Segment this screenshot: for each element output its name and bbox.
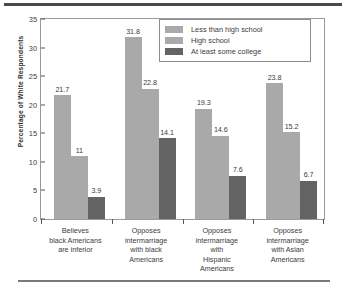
bar-value-label: 15.2 bbox=[285, 122, 299, 131]
bar-fill bbox=[229, 176, 246, 219]
bar-value-label: 22.8 bbox=[143, 78, 157, 87]
y-axis-tick-label: 20 bbox=[29, 100, 37, 109]
y-axis-tick-label: 5 bbox=[33, 186, 37, 195]
top-divider-rule bbox=[4, 3, 342, 6]
chart-legend: Less than high school High school At lea… bbox=[159, 19, 311, 62]
x-axis-category-label-line: Hispanic bbox=[182, 255, 253, 265]
y-axis-tick-mark bbox=[41, 104, 45, 105]
x-axis-category-label: Opposesintermarriagewith blackAmericans bbox=[111, 226, 182, 264]
x-axis-category-label-line: intermarriage bbox=[111, 236, 182, 246]
bottom-divider-rule bbox=[18, 280, 330, 282]
x-axis-tick-mark bbox=[183, 219, 184, 224]
x-axis-category-label: Believesblack Americansare inferior bbox=[40, 226, 111, 255]
legend-item: High school bbox=[165, 35, 305, 46]
x-axis-category-label-line: intermarriage bbox=[252, 236, 323, 246]
bar-value-label: 23.8 bbox=[268, 73, 282, 82]
x-axis-tick-mark bbox=[41, 219, 42, 224]
bar-value-label: 11 bbox=[76, 146, 83, 155]
bar-value-label: 3.9 bbox=[91, 186, 101, 195]
x-axis-category-label-line: Believes bbox=[40, 226, 111, 236]
x-axis-category-label-line: Americans bbox=[252, 255, 323, 265]
bar-fill bbox=[54, 95, 71, 219]
x-axis-category-label-line: Opposes bbox=[252, 226, 323, 236]
y-axis-tick-mark bbox=[41, 19, 45, 20]
bar-fill bbox=[159, 138, 176, 219]
y-axis-tick-mark bbox=[41, 133, 45, 134]
bar-value-label: 19.3 bbox=[197, 98, 211, 107]
bar-fill bbox=[300, 181, 317, 219]
bar-group: 21.7113.9 bbox=[54, 19, 105, 219]
x-axis-category-label-line: Opposes bbox=[182, 226, 253, 236]
x-axis-category-label: OpposesintermarriagewithHispanicAmerican… bbox=[182, 226, 253, 274]
bar-fill bbox=[195, 109, 212, 219]
x-axis-category-label-line: black Americans bbox=[40, 236, 111, 246]
legend-label: Less than high school bbox=[191, 25, 263, 34]
x-axis-category-label: Opposesintermarriagewith AsianAmericans bbox=[252, 226, 323, 264]
bar-value-label: 14.1 bbox=[160, 128, 174, 137]
x-axis-category-label-line: intermarriage bbox=[182, 236, 253, 246]
bar-fill bbox=[142, 89, 159, 219]
y-axis-tick-label: 0 bbox=[33, 215, 37, 224]
y-axis-tick-mark bbox=[41, 161, 45, 162]
x-axis-category-labels: Believesblack Americansare inferiorOppos… bbox=[40, 226, 325, 286]
legend-item: Less than high school bbox=[165, 24, 305, 35]
y-axis-tick: 0 bbox=[33, 215, 41, 224]
bar-fill bbox=[283, 132, 300, 219]
y-axis-tick: 15 bbox=[29, 129, 41, 138]
y-axis-title: Percentage of White Respondents bbox=[17, 17, 24, 167]
x-axis-category-label-line: are inferior bbox=[40, 245, 111, 255]
bar-group-bars: 21.7113.9 bbox=[54, 19, 105, 219]
bar-value-label: 6.7 bbox=[304, 170, 314, 179]
bar-value-label: 31.8 bbox=[126, 27, 140, 36]
x-axis-category-label-line: Americans bbox=[182, 264, 253, 274]
y-axis-tick: 5 bbox=[33, 186, 41, 195]
bar-fill bbox=[88, 197, 105, 219]
y-axis-tick-label: 25 bbox=[29, 72, 37, 81]
x-axis-category-label-line: Opposes bbox=[111, 226, 182, 236]
legend-swatch-at-least-some-college bbox=[165, 48, 183, 55]
x-axis-category-label-line: with Asian bbox=[252, 245, 323, 255]
bar-fill bbox=[71, 156, 88, 219]
bar-fill bbox=[212, 136, 229, 219]
y-axis-tick-label: 30 bbox=[29, 43, 37, 52]
y-axis-tick-label: 35 bbox=[29, 15, 37, 24]
legend-label: At least some college bbox=[191, 47, 261, 56]
legend-item: At least some college bbox=[165, 46, 305, 57]
bar-value-label: 7.6 bbox=[233, 165, 243, 174]
x-axis-category-label-line: with black bbox=[111, 245, 182, 255]
bar-fill bbox=[266, 83, 283, 219]
y-axis-tick: 25 bbox=[29, 72, 41, 81]
y-axis-tick-label: 15 bbox=[29, 129, 37, 138]
legend-swatch-less-than-high-school bbox=[165, 26, 183, 33]
y-axis-tick: 20 bbox=[29, 100, 41, 109]
bar-fill bbox=[125, 37, 142, 219]
bar-chart-figure: Percentage of White Respondents 35302520… bbox=[0, 10, 346, 278]
x-axis-category-label-line: Americans bbox=[111, 255, 182, 265]
y-axis-tick-mark bbox=[41, 190, 45, 191]
y-axis-tick: 30 bbox=[29, 43, 41, 52]
bar-value-label: 21.7 bbox=[55, 85, 69, 94]
y-axis-tick: 35 bbox=[29, 15, 41, 24]
y-axis-tick-mark bbox=[41, 76, 45, 77]
x-axis-tick-mark bbox=[323, 219, 324, 224]
y-axis-tick: 10 bbox=[29, 157, 41, 166]
x-axis-category-label-line: with bbox=[182, 245, 253, 255]
x-axis-tick-mark bbox=[112, 219, 113, 224]
legend-swatch-high-school bbox=[165, 37, 183, 44]
legend-label: High school bbox=[191, 36, 230, 45]
y-axis-tick-label: 10 bbox=[29, 157, 37, 166]
x-axis-tick-mark bbox=[253, 219, 254, 224]
y-axis-tick-mark bbox=[41, 47, 45, 48]
bar-value-label: 14.6 bbox=[214, 125, 228, 134]
